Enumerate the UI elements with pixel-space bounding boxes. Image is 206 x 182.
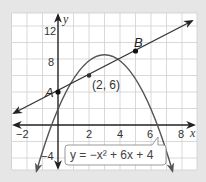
tick-x-6: 6 bbox=[147, 128, 153, 140]
x-axis-label: x bbox=[189, 126, 196, 140]
point-a-label: A bbox=[44, 85, 54, 100]
tick-y-neg4: −4 bbox=[41, 150, 54, 162]
tick-x-2: 2 bbox=[86, 128, 92, 140]
tick-x-4: 4 bbox=[117, 128, 123, 140]
tick-x-8: 8 bbox=[178, 128, 184, 140]
equation-label: y = −x² + 6x + 4 bbox=[70, 148, 154, 162]
point-2-6-label: (2, 6) bbox=[92, 78, 120, 92]
tick-y-8: 8 bbox=[48, 56, 54, 68]
tick-x-neg2: −2 bbox=[16, 128, 29, 140]
point-2-6 bbox=[87, 73, 92, 78]
graph: 12 8 −4 −2 2 4 6 8 y x A B (2, 6) y = −x… bbox=[0, 0, 206, 182]
point-a bbox=[55, 89, 60, 94]
y-axis-label: y bbox=[62, 12, 69, 26]
tick-y-12: 12 bbox=[44, 25, 56, 37]
point-b-label: B bbox=[134, 35, 143, 50]
